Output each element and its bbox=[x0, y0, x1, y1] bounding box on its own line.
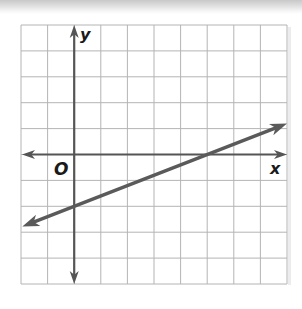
x-axis-label: x bbox=[269, 159, 281, 178]
grid-shadow bbox=[288, 27, 291, 285]
coordinate-graph: y x O bbox=[0, 0, 302, 309]
y-axis-label: y bbox=[80, 25, 91, 44]
origin-label: O bbox=[54, 159, 68, 179]
line-segment bbox=[32, 127, 278, 223]
